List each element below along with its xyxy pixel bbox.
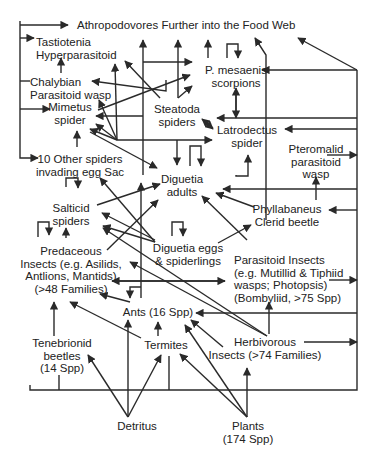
- node-tenebrionid: Tenebrionidbeetles(14 Spp): [32, 337, 91, 375]
- node-label-line: wasps; Photopsis): [234, 279, 343, 292]
- node-diguetia-adults: Diguetiaadults: [161, 173, 203, 198]
- node-label-line: Athropodovores Further into the Food Web: [77, 19, 295, 32]
- arrow-phyllabaneus-to-diguetia_adults: [216, 193, 254, 207]
- arrow-diguetia_eggs-to-salticid: [102, 213, 155, 240]
- node-label-line: Parasitoid Insects: [234, 254, 343, 267]
- node-plants: Plants(174 Spp): [223, 420, 274, 445]
- node-herbivorous: HerbivorousInsects (>74 Families): [209, 336, 322, 361]
- node-label-line: Diguetia eggs: [153, 242, 223, 255]
- node-label-line: Mimetus: [48, 101, 91, 114]
- node-termites: Termites: [144, 339, 187, 352]
- node-diguetia-eggs: Diguetia eggs& spiderlings: [153, 242, 223, 267]
- node-label-line: Pteromalid: [289, 143, 344, 156]
- arrow-detritus-to-termites: [128, 355, 161, 417]
- node-label-line: Clerid beetle: [252, 216, 321, 229]
- node-tastiotenia: TastioteniaHyperparasitoid: [36, 36, 117, 61]
- arrow-pred-loop-to-predaceous: [38, 222, 49, 237]
- arrow-salticid-to-diguetia_adults: [97, 184, 160, 205]
- arrow-pmes-loop-to-pmes: [227, 44, 238, 58]
- node-label-line: Ants (16 Spp): [123, 306, 193, 319]
- arrow-hub-to-top: [115, 64, 117, 140]
- food-web-diagram: [0, 0, 377, 463]
- node-other-spiders: 10 Other spidersinvading egg Sac: [36, 153, 124, 178]
- arrow-ants-to-predaceous: [100, 294, 130, 302]
- node-label-line: beetles: [32, 350, 91, 363]
- node-label-line: Tenebrionid: [32, 337, 91, 350]
- node-label-line: Insects (>74 Families): [209, 349, 322, 362]
- arrow-oth-loop-to-salticid: [66, 178, 78, 188]
- node-label-line: Hyperparasitoid: [36, 49, 117, 62]
- node-label-line: spider: [217, 137, 277, 150]
- node-label-line: wasp: [289, 168, 344, 181]
- node-label-line: adults: [161, 186, 203, 199]
- node-label-line: (14 Spp): [32, 362, 91, 375]
- node-label-line: spiders: [52, 215, 89, 228]
- node-predaceous: PredaceousInsects (e.g. Asilids,Antlions…: [20, 245, 122, 295]
- node-label-line: Diguetia: [161, 173, 203, 186]
- node-label-line: Latrodectus: [217, 124, 277, 137]
- node-label-line: Predaceous: [20, 245, 122, 258]
- node-p-mesaenis: P. mesaenisscorpions: [205, 64, 267, 89]
- node-pteromalid: Pteromalidparasitoidwasp: [289, 143, 344, 181]
- arrow-predaceous-to-diguetia_adults: [107, 200, 158, 250]
- node-label-line: Chalybian: [30, 76, 111, 89]
- node-label-line: scorpions: [205, 77, 267, 90]
- node-label-line: Phyllabaneus: [252, 203, 321, 216]
- node-label-line: Tastiotenia: [36, 36, 117, 49]
- arrow-steatoda-to-latrodectus: [203, 120, 213, 129]
- arrow-dig-loop-to-diguetia_adults: [190, 146, 201, 166]
- node-latrodectus: Latrodectusspider: [217, 124, 277, 149]
- node-label-line: parasitoid: [289, 156, 344, 169]
- node-chalybian: ChalybianParasitoid wasp: [30, 76, 111, 101]
- node-label-line: & spiderlings: [153, 255, 223, 268]
- node-label-line: invading egg Sac: [36, 166, 124, 179]
- node-label-line: Steatoda: [154, 103, 200, 116]
- arrow-egg-loop-to-diguetia_eggs: [172, 222, 183, 236]
- node-label-line: Plants: [223, 420, 274, 433]
- arrow-col141-to-ants: [130, 287, 141, 298]
- node-label-line: Salticid: [52, 202, 89, 215]
- node-mimetus: Mimetusspider: [48, 101, 91, 126]
- node-parasitoid-insects: Parasitoid Insects(e.g. Mutillid & Tiphi…: [234, 254, 343, 304]
- node-label-line: Termites: [144, 339, 187, 352]
- arrow-detritus-to-tenebrionid: [88, 355, 128, 417]
- node-label-line: (e.g. Mutillid & Tiphiid: [234, 267, 343, 280]
- node-label-line: Detritus: [117, 420, 157, 433]
- node-detritus: Detritus: [117, 420, 157, 433]
- node-label-line: P. mesaenis: [205, 64, 267, 77]
- node-label-line: Antlions, Mantids): [20, 270, 122, 283]
- arrow-plants-to-termites: [180, 354, 247, 417]
- node-label-line: Parasitoid wasp: [30, 89, 111, 102]
- node-steatoda: Steatodaspiders: [154, 103, 200, 128]
- node-ants: Ants (16 Spp): [123, 306, 193, 319]
- node-label-line: spider: [48, 114, 91, 127]
- arrow-lat-loop-to-latrodectus: [236, 155, 248, 176]
- node-label-line: (Bombyliid, >75 Spp): [234, 292, 343, 305]
- arrow-diguetia_eggs-to-other_spiders: [100, 178, 155, 242]
- arrow-steatoda-to-p_mesaenis: [178, 86, 192, 98]
- node-salticid: Salticidspiders: [52, 202, 89, 227]
- node-label-line: (174 Spp): [223, 433, 274, 446]
- node-label-line: Insects (e.g. Asilids,: [20, 258, 122, 271]
- node-phyllabaneus: PhyllabaneusClerid beetle: [252, 203, 321, 228]
- node-label-line: 10 Other spiders: [36, 153, 124, 166]
- arrow-right-to-athropodovores: [298, 38, 357, 70]
- node-label-line: spiders: [154, 116, 200, 129]
- node-athropodovores: Athropodovores Further into the Food Web: [77, 19, 295, 32]
- node-label-line: Herbivorous: [209, 336, 322, 349]
- node-label-line: (>48 Families): [20, 283, 122, 296]
